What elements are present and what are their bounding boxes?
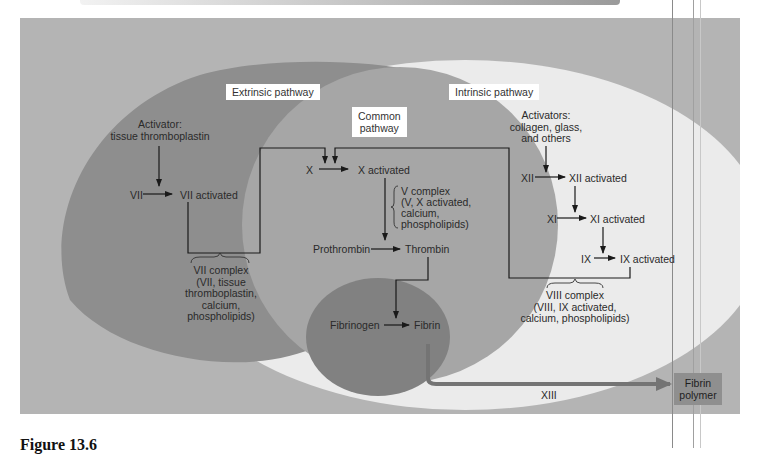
factor-x: X [306, 164, 313, 176]
common-title-line1: Common [358, 110, 401, 122]
figure-caption: Figure 13.6 [20, 436, 97, 454]
factor-ix: IX [581, 253, 591, 265]
factor-x-activated: X activated [358, 164, 410, 176]
page-fold-line [672, 0, 673, 448]
prothrombin: Prothrombin [313, 243, 370, 255]
viii-complex-line: calcium, phospholipids) [518, 313, 632, 325]
thrombin: Thrombin [405, 243, 449, 255]
fibrinogen: Fibrinogen [330, 319, 380, 331]
vii-complex-line: phospholipids) [176, 311, 266, 323]
viii-complex: VIII complex (VIII, IX activated, calciu… [518, 290, 632, 325]
fibrin-polymer-box: Fibrin polymer [674, 373, 722, 405]
v-complex-line: phospholipids) [401, 219, 471, 230]
factor-vii-activated: VII activated [180, 189, 238, 201]
vii-complex-line: thromboplastin, [176, 288, 266, 300]
factor-xii: XII [521, 172, 534, 184]
activator-label: Activator: [108, 118, 212, 130]
fibrin-polymer-line: Fibrin [674, 377, 722, 389]
vii-complex: VII complex (VII, tissue thromboplastin,… [176, 265, 266, 323]
activators-line: Activators: [504, 110, 588, 122]
factor-xi: XI [547, 213, 557, 225]
factor-xii-activated: XII activated [569, 172, 627, 184]
activator-value: tissue thromboplastin [108, 130, 212, 142]
factor-vii: VII [130, 189, 143, 201]
viii-complex-line: VIII complex [518, 290, 632, 302]
v-complex: V complex (V, X activated, calcium, phos… [401, 186, 471, 230]
intrinsic-activators: Activators: collagen, glass, and others [504, 110, 588, 145]
vii-complex-line: VII complex [176, 265, 266, 277]
extrinsic-activator: Activator: tissue thromboplastin [108, 118, 212, 142]
extrinsic-pathway-title: Extrinsic pathway [226, 84, 320, 100]
factor-xiii: XIII [541, 389, 557, 401]
factor-ix-activated: IX activated [620, 253, 675, 265]
fibrin-polymer-line: polymer [674, 389, 722, 401]
intrinsic-pathway-title: Intrinsic pathway [449, 84, 539, 100]
fibrin: Fibrin [414, 319, 440, 331]
factor-xi-activated: XI activated [590, 213, 645, 225]
common-title-line2: pathway [358, 122, 401, 134]
activators-line: and others [504, 133, 588, 145]
common-pathway-title: Common pathway [352, 107, 407, 137]
